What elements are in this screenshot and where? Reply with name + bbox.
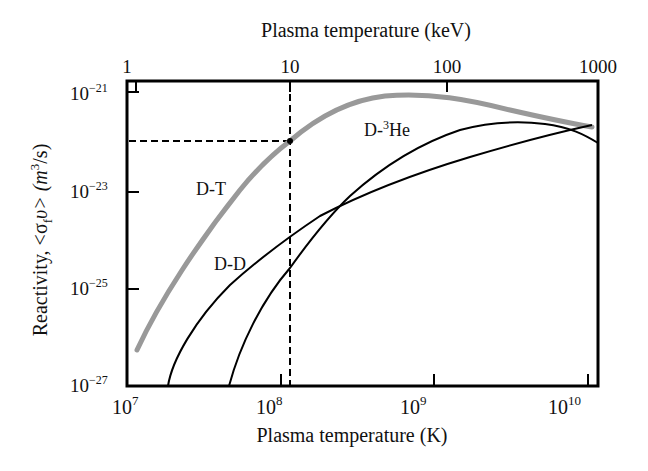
label-dhe3: D-3He [364, 118, 410, 140]
curve-dhe3 [229, 122, 598, 386]
plot-frame [127, 81, 598, 386]
bottom-tick-1e7: 107 [112, 393, 139, 418]
left-tick-1e-25: 10−25 [70, 276, 108, 299]
label-dd: D-D [214, 254, 246, 274]
y-axis-title: Reactivity, <σfυ> (m3/s) [27, 144, 55, 337]
bottom-tick-1e10: 1010 [548, 393, 581, 418]
top-tick-1000: 1000 [579, 56, 617, 77]
bottom-tick-1e8: 108 [256, 393, 283, 418]
left-tick-1e-23: 10−23 [70, 179, 108, 202]
left-tick-1e-21: 10−21 [70, 81, 108, 104]
top-axis-title: Plasma temperature (keV) [261, 19, 471, 42]
label-dt: D-T [196, 179, 226, 199]
top-tick-10: 10 [281, 56, 300, 77]
dt-marker-point [287, 138, 293, 144]
top-tick-100: 100 [433, 56, 462, 77]
top-tick-1: 1 [122, 56, 132, 77]
top-ticks [127, 81, 447, 93]
bottom-tick-1e9: 109 [400, 393, 427, 418]
bottom-axis-title: Plasma temperature (K) [256, 424, 447, 447]
left-ticks [127, 192, 139, 289]
reactivity-chart: Plasma temperature (keV) 1 10 100 1000 D… [0, 0, 648, 471]
left-tick-1e-27: 10−27 [70, 373, 108, 396]
bottom-ticks [281, 374, 588, 386]
guide-lines [129, 83, 290, 386]
